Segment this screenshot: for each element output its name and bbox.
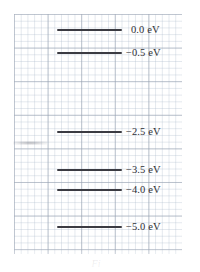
energy-level-line — [57, 131, 122, 133]
energy-level-label: 0.0 eV — [131, 24, 160, 36]
energy-level: −5.0 eV — [0, 221, 200, 233]
energy-level: −0.5 eV — [0, 47, 200, 59]
energy-level: −2.5 eV — [0, 126, 200, 138]
energy-level-label: −3.5 eV — [126, 164, 161, 176]
scan-smudge-artifact — [13, 141, 47, 145]
caption-fragment: Fi — [88, 258, 104, 270]
energy-level-line — [57, 189, 122, 191]
energy-levels-group: 0.0 eV−0.5 eV−2.5 eV−3.5 eV−4.0 eV−5.0 e… — [0, 0, 200, 272]
energy-level: −3.5 eV — [0, 164, 200, 176]
energy-level-line — [57, 52, 122, 54]
energy-level-label: −2.5 eV — [126, 126, 161, 138]
energy-level-line — [57, 226, 122, 228]
energy-level-line — [57, 29, 122, 31]
energy-level: −4.0 eV — [0, 184, 200, 196]
energy-level-figure: 0.0 eV−0.5 eV−2.5 eV−3.5 eV−4.0 eV−5.0 e… — [0, 0, 200, 272]
energy-level-label: −5.0 eV — [126, 221, 161, 233]
energy-level-line — [57, 169, 122, 171]
energy-level-label: −0.5 eV — [126, 47, 161, 59]
energy-level: 0.0 eV — [0, 24, 200, 36]
energy-level-label: −4.0 eV — [126, 184, 161, 196]
